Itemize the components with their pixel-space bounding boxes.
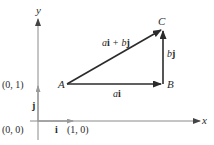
point-b-label: B <box>167 78 174 90</box>
origin-label: (0, 0) <box>2 124 24 136</box>
i-label: i <box>55 124 58 135</box>
point-a-label: A <box>57 78 65 90</box>
vector-ab-label: ai <box>113 88 121 99</box>
x-axis-label: x <box>201 114 207 126</box>
point-c-label: C <box>158 15 166 27</box>
unit-y-point-label: (0, 1) <box>2 79 24 91</box>
vector-ac-label: ai+bj <box>102 37 130 48</box>
unit-x-point-label: (1, 0) <box>67 124 89 136</box>
vector-diagram: y x j i (0, 1) (0, 0) (1, 0) A <box>0 0 214 145</box>
j-label: j <box>31 100 35 111</box>
vector-bc-label: bj <box>167 48 175 59</box>
y-axis-label: y <box>35 4 41 16</box>
